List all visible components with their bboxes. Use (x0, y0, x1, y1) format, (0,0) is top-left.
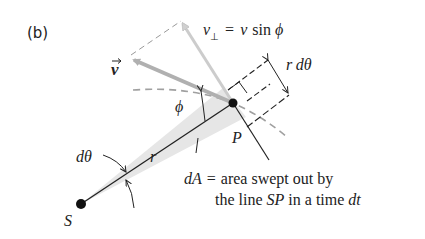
dtheta-arc-upper (103, 155, 126, 172)
caption-line-1: dA=area swept out by (184, 170, 333, 188)
point-S (76, 199, 86, 209)
point-P (229, 99, 238, 108)
right-angle-mark (228, 82, 247, 93)
label-dtheta: dθ (76, 148, 92, 165)
radius-line-SP (81, 103, 233, 204)
label-phi: ϕ (175, 98, 183, 116)
rdtheta-box-bottom (247, 95, 289, 127)
dtheta-arc-lower (126, 180, 134, 208)
orbital-area-diagram: (b) v v⊥=vsinϕ rdθ ϕ P r dθ S dA=area sw… (0, 0, 425, 239)
rdtheta-box-mid (247, 84, 270, 101)
label-S: S (64, 212, 72, 229)
panel-label: (b) (27, 24, 48, 42)
label-r-dtheta: rdθ (286, 56, 312, 73)
label-P: P (231, 129, 242, 146)
rdtheta-arrow (268, 60, 288, 93)
label-v-perp: v⊥=vsinϕ (203, 21, 283, 42)
label-v-vector: v (111, 60, 119, 79)
caption-line-2: the lineSPin a timedt (215, 191, 361, 208)
label-r: r (150, 148, 157, 165)
v-component-dashed (131, 21, 181, 55)
